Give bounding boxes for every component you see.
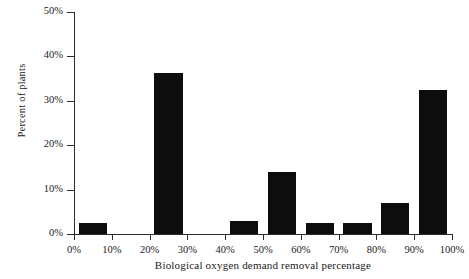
y-tick-label: 50%: [29, 5, 63, 16]
y-tick-label: 0%: [29, 227, 63, 238]
x-tick: [339, 234, 340, 240]
y-tick: 30%: [67, 101, 74, 102]
x-tick-label: 20%: [130, 244, 170, 255]
x-tick: [187, 234, 188, 240]
x-tick: [301, 234, 302, 240]
x-tick-label: 70%: [319, 244, 359, 255]
bar: [381, 203, 409, 234]
x-tick-label: 60%: [281, 244, 321, 255]
bar: [306, 223, 334, 234]
bars-layer: [74, 12, 452, 234]
x-tick: [112, 234, 113, 240]
clipped-header-text: [150, 0, 460, 7]
bar: [79, 223, 107, 234]
x-tick-label: 80%: [356, 244, 396, 255]
x-tick-label: 10%: [92, 244, 132, 255]
y-axis-label: Percent of plants: [16, 31, 27, 171]
x-tick-label: 0%: [54, 244, 94, 255]
x-tick: [376, 234, 377, 240]
y-tick-label: 40%: [29, 49, 63, 60]
x-tick: [74, 234, 75, 240]
bar: [154, 73, 182, 234]
x-tick: [150, 234, 151, 240]
y-tick: 0%: [67, 234, 74, 235]
bar: [268, 172, 296, 234]
x-tick-label: 40%: [205, 244, 245, 255]
y-tick: 50%: [67, 12, 74, 13]
y-tick: 20%: [67, 145, 74, 146]
plot-area: 0%10%20%30%40%50% 0%10%20%30%40%50%60%70…: [74, 12, 452, 234]
y-tick: 40%: [67, 56, 74, 57]
y-tick-label: 20%: [29, 138, 63, 149]
bar: [230, 221, 258, 234]
bar: [419, 90, 447, 234]
x-tick: [263, 234, 264, 240]
x-tick: [414, 234, 415, 240]
x-tick-label: 90%: [394, 244, 434, 255]
x-tick: [225, 234, 226, 240]
x-axis-label: Biological oxygen demand removal percent…: [74, 259, 452, 271]
x-tick-label: 30%: [167, 244, 207, 255]
y-tick-label: 30%: [29, 94, 63, 105]
x-tick-label: 50%: [243, 244, 283, 255]
bar: [343, 223, 371, 234]
y-tick: 10%: [67, 190, 74, 191]
x-tick: [452, 234, 453, 240]
x-tick-label: 100%: [432, 244, 469, 255]
y-tick-label: 10%: [29, 183, 63, 194]
